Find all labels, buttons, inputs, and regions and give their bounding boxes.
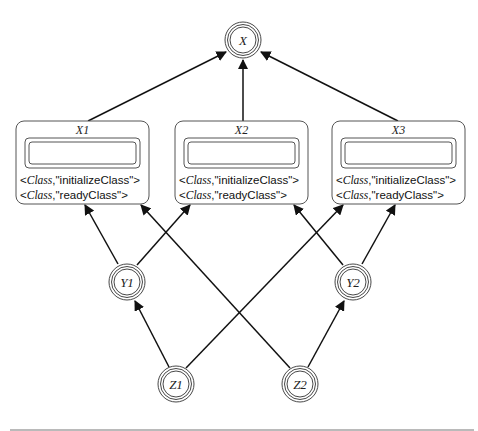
box-x3-attr-1: <Class,"initializeClass"> [336, 174, 456, 186]
edge-x1-to-x [88, 52, 226, 121]
box-title-x2: X2 [234, 123, 248, 137]
edge-y2-to-x2 [294, 205, 343, 265]
edge-z1-to-y1 [135, 301, 169, 367]
state-node-y1[interactable]: Y1 [109, 264, 145, 300]
state-node-y2[interactable]: Y2 [335, 264, 371, 300]
node-label-y2: Y2 [346, 275, 360, 290]
edge-z2-to-x1 [141, 205, 290, 368]
state-node-z2[interactable]: Z2 [282, 366, 318, 402]
node-label-z1: Z1 [169, 377, 183, 392]
state-box-x3[interactable]: X3 <Class,"initializeClass"> <Class,"rea… [332, 121, 465, 204]
box-title-x1: X1 [75, 123, 89, 137]
edge-y1-to-x2 [137, 205, 190, 265]
edge-y2-to-x3 [362, 205, 395, 264]
box-title-x3: X3 [391, 123, 405, 137]
state-node-x[interactable]: X [225, 22, 261, 58]
edge-z1-to-x3 [186, 205, 343, 368]
box-x2-attr-1: <Class,"initializeClass"> [179, 174, 299, 186]
state-box-x1[interactable]: X1 <Class,"initializeClass"> <Class,"rea… [16, 121, 149, 204]
edges [85, 52, 398, 368]
edge-x3-to-x [261, 52, 398, 121]
edge-z2-to-y2 [308, 301, 344, 367]
state-node-z1[interactable]: Z1 [158, 366, 194, 402]
box-x2-attr-2: <Class,"readyClass"> [179, 189, 287, 201]
edge-y1-to-x1 [85, 205, 118, 264]
node-label-x: X [238, 33, 248, 48]
node-label-z2: Z2 [293, 377, 307, 392]
state-box-x2[interactable]: X2 <Class,"initializeClass"> <Class,"rea… [175, 121, 308, 204]
box-x3-attr-2: <Class,"readyClass"> [336, 189, 444, 201]
state-diagram: X X1 <Class,"initializeClass"> <Class,"r… [0, 0, 478, 431]
box-x1-attr-1: <Class,"initializeClass"> [20, 174, 140, 186]
node-label-y1: Y1 [120, 275, 134, 290]
box-x1-attr-2: <Class,"readyClass"> [20, 189, 128, 201]
